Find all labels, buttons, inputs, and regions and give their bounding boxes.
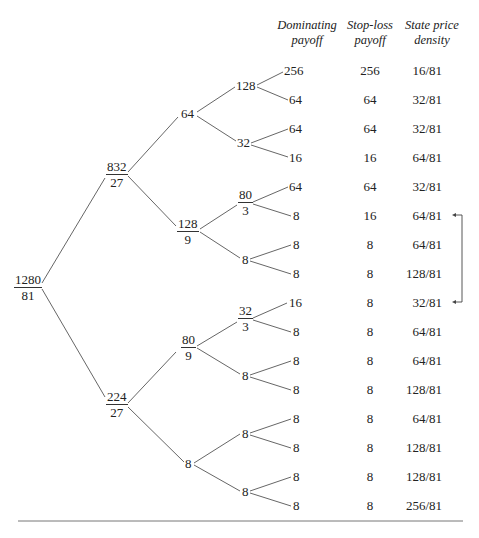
header-stop-loss-payoff: Stop-loss payoff — [340, 18, 400, 48]
header-line: State price — [392, 18, 472, 33]
leaf-dominating-payoff: 8 — [293, 470, 300, 484]
header-line: Dominating — [262, 18, 352, 33]
leaf-dominating-payoff: 8 — [293, 238, 300, 252]
leaf-state-price-density: 128/81 — [382, 441, 442, 455]
node-l3-7: 8 — [242, 427, 249, 441]
node-l3-6: 8 — [242, 369, 249, 383]
leaf-state-price-density: 64/81 — [382, 412, 442, 426]
numerator: 80 — [238, 188, 253, 203]
numerator: 1280 — [14, 273, 42, 288]
numerator: 32 — [238, 304, 253, 319]
denominator: 27 — [106, 405, 128, 419]
node-l2-2: 128 9 — [177, 217, 199, 246]
leaf-dominating-payoff: 8 — [293, 325, 300, 339]
leaf-state-price-density: 256/81 — [382, 499, 442, 513]
header-line: payoff — [262, 33, 352, 48]
node-l3-4: 8 — [242, 253, 249, 267]
node-l3-5: 32 3 — [238, 304, 253, 333]
leaf-state-price-density: 128/81 — [382, 470, 442, 484]
leaf-state-price-density: 16/81 — [382, 64, 442, 78]
node-l3-8: 8 — [242, 485, 249, 499]
leaf-state-price-density: 32/81 — [382, 296, 442, 310]
leaf-state-price-density: 64/81 — [382, 325, 442, 339]
header-line: payoff — [340, 33, 400, 48]
header-line: Stop-loss — [340, 18, 400, 33]
leaf-dominating-payoff: 8 — [293, 441, 300, 455]
denominator: 3 — [238, 203, 253, 217]
header-line: density — [392, 33, 472, 48]
leaf-state-price-density: 32/81 — [382, 180, 442, 194]
node-l3-1: 128 — [236, 79, 256, 93]
numerator: 224 — [106, 390, 128, 405]
numerator: 128 — [177, 217, 199, 232]
numerator: 832 — [106, 160, 128, 175]
leaf-dominating-payoff: 16 — [289, 151, 302, 165]
leaf-dominating-payoff: 8 — [293, 267, 300, 281]
denominator: 3 — [238, 319, 253, 333]
denominator: 27 — [106, 175, 128, 189]
leaf-dominating-payoff: 64 — [289, 180, 302, 194]
header-state-price-density: State price density — [392, 18, 472, 48]
header-dominating-payoff: Dominating payoff — [262, 18, 352, 48]
leaf-dominating-payoff: 8 — [293, 383, 300, 397]
node-l3-3: 80 3 — [238, 188, 253, 217]
leaf-state-price-density: 128/81 — [382, 267, 442, 281]
swap-bracket — [455, 215, 462, 302]
leaf-dominating-payoff: 8 — [293, 499, 300, 513]
leaf-dominating-payoff: 8 — [293, 209, 300, 223]
leaf-dominating-payoff: 64 — [289, 122, 302, 136]
leaf-dominating-payoff: 8 — [293, 412, 300, 426]
node-l2-1: 64 — [181, 107, 194, 121]
leaf-dominating-payoff: 256 — [284, 64, 304, 78]
leaf-state-price-density: 64/81 — [382, 238, 442, 252]
denominator: 9 — [177, 232, 199, 246]
leaf-state-price-density: 64/81 — [382, 354, 442, 368]
node-l1-up: 832 27 — [106, 160, 128, 189]
node-l3-2: 32 — [237, 136, 250, 150]
leaf-state-price-density: 64/81 — [382, 151, 442, 165]
leaf-state-price-density: 64/81 — [382, 209, 442, 223]
leaf-dominating-payoff: 8 — [293, 354, 300, 368]
numerator: 80 — [181, 333, 196, 348]
node-root: 1280 81 — [14, 273, 42, 302]
leaf-state-price-density: 32/81 — [382, 122, 442, 136]
leaf-state-price-density: 32/81 — [382, 93, 442, 107]
node-l2-4: 8 — [185, 457, 192, 471]
node-l2-3: 80 9 — [181, 333, 196, 362]
node-l1-down: 224 27 — [106, 390, 128, 419]
denominator: 9 — [181, 348, 196, 362]
leaf-dominating-payoff: 16 — [289, 296, 302, 310]
denominator: 81 — [14, 288, 42, 302]
leaf-dominating-payoff: 64 — [289, 93, 302, 107]
leaf-state-price-density: 128/81 — [382, 383, 442, 397]
